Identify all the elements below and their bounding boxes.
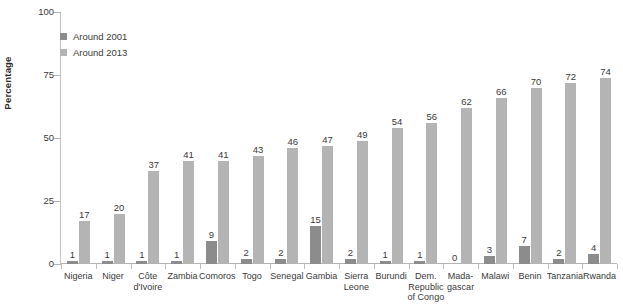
bar-group: 246 [270,12,305,264]
bar-value-label: 43 [253,145,264,155]
bar-value-label: 2 [278,248,283,258]
bar-value-label: 1 [104,250,109,260]
bar-old: 15 [310,226,321,264]
bar-new: 49 [357,141,368,264]
bar-value-label: 72 [566,72,577,82]
legend-label: Around 2013 [73,47,127,58]
bar-value-label: 1 [174,250,179,260]
bar-old: 2 [345,259,356,264]
bar-old: 1 [67,261,78,264]
bar-old: 1 [380,261,391,264]
bar-group: 141 [165,12,200,264]
x-axis-tick [339,264,340,269]
legend-swatch-icon [60,33,67,40]
bar-value-label: 1 [417,250,422,260]
bar-chart: Percentage 0255075100 117120137141941243… [0,0,623,307]
bar-old: 2 [275,259,286,264]
bar-value-label: 47 [322,135,333,145]
x-axis-tick [131,264,132,269]
bar-group: 1547 [304,12,339,264]
x-axis-label: Rwanda [575,271,623,282]
bar-new: 74 [600,78,611,264]
bar-new: 20 [114,214,125,264]
bar-value-label: 46 [288,137,299,147]
bar-value-label: 1 [139,250,144,260]
bar-new: 41 [183,161,194,264]
x-axis-label-line: gascar [436,282,485,293]
bar-new: 62 [461,108,472,264]
bar-group: 272 [548,12,583,264]
x-axis-tick [304,264,305,269]
bar-value-label: 56 [427,112,438,122]
legend-item: Around 2001 [60,28,127,44]
x-axis-tick [165,264,166,269]
bar-group: 366 [478,12,513,264]
bar-group: 062 [443,12,478,264]
bar-group: 941 [200,12,235,264]
bar-old: 1 [171,261,182,264]
bar-value-label: 49 [357,130,368,140]
bar-new: 66 [496,98,507,264]
y-axis-tick [54,138,61,139]
x-axis-label-line: d'Ivoire [124,282,173,293]
bar-new: 72 [565,83,576,264]
bar-value-label: 41 [218,150,229,160]
bar-old: 1 [414,261,425,264]
x-axis-tick [96,264,97,269]
bar-value-label: 66 [496,87,507,97]
bar-new: 46 [287,148,298,264]
x-axis-tick [513,264,514,269]
x-axis-tick [235,264,236,269]
bar-old: 3 [484,256,495,264]
x-axis-tick [478,264,479,269]
bar-value-label: 0 [452,253,457,263]
legend-label: Around 2001 [73,31,127,42]
y-axis-tick-label: 75 [24,69,54,80]
bar-value-label: 41 [183,150,194,160]
bar-value-label: 2 [243,248,248,258]
y-axis-tick [54,264,61,265]
bar-group: 249 [339,12,374,264]
bar-value-label: 2 [556,248,561,258]
bar-value-label: 74 [600,67,611,77]
bar-value-label: 4 [591,243,596,253]
x-axis-tick [270,264,271,269]
bar-group: 770 [513,12,548,264]
bar-new: 56 [426,123,437,264]
bar-old: 2 [553,259,564,264]
y-axis-title: Percentage [2,28,13,138]
bar-new: 54 [392,128,403,264]
bar-value-label: 62 [461,97,472,107]
bar-group: 154 [374,12,409,264]
legend-item: Around 2013 [60,44,127,60]
bar-value-label: 1 [70,250,75,260]
bar-value-label: 7 [521,235,526,245]
bar-value-label: 70 [531,77,542,87]
bar-old: 1 [102,261,113,264]
bar-new: 70 [531,88,542,264]
x-axis-tick [443,264,444,269]
y-axis-tick-label: 0 [24,258,54,269]
bar-new: 43 [253,156,264,264]
bar-value-label: 1 [382,250,387,260]
bar-value-label: 3 [487,245,492,255]
chart-legend: Around 2001Around 2013 [60,28,127,60]
bar-old: 1 [136,261,147,264]
bar-new: 41 [218,161,229,264]
bar-old: 2 [241,259,252,264]
y-axis-tick-label: 25 [24,195,54,206]
plot-area: 1171201371419412432461547249154156062366… [61,12,617,264]
bar-old: 9 [206,241,217,264]
bar-value-label: 37 [149,160,160,170]
bar-group: 156 [409,12,444,264]
x-axis-tick [617,264,618,269]
x-axis-tick [409,264,410,269]
bar-value-label: 2 [348,248,353,258]
bar-old: 7 [519,246,530,264]
x-axis-tick [61,264,62,269]
bar-group: 474 [582,12,617,264]
bar-group: 137 [131,12,166,264]
bar-group: 243 [235,12,270,264]
bar-value-label: 17 [79,210,90,220]
x-axis-label-line: Leone [332,282,381,293]
